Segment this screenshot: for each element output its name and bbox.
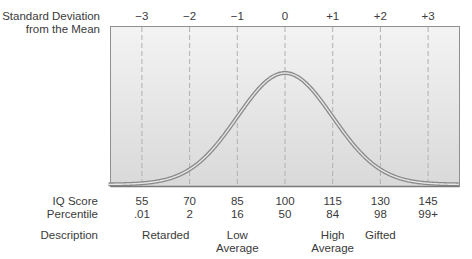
sd-row-label: Standard Deviation from the Mean xyxy=(0,10,100,36)
iq-score-value: 100 xyxy=(275,195,294,208)
percentile-row-label: Percentile xyxy=(0,208,98,221)
description-label: Gifted xyxy=(365,229,396,242)
iq-score-value: 85 xyxy=(231,195,244,208)
sd-tick-label: +2 xyxy=(374,10,387,23)
percentile-value: 98 xyxy=(374,208,387,221)
description-label: HighAverage xyxy=(311,229,354,255)
sd-tick-label: +3 xyxy=(422,10,435,23)
description-label: LowAverage xyxy=(216,229,259,255)
sd-label-line2: from the Mean xyxy=(0,23,100,36)
percentile-value: 99+ xyxy=(418,208,438,221)
sd-tick-label: −1 xyxy=(231,10,244,23)
sd-tick-label: 0 xyxy=(282,10,288,23)
description-row-label: Description xyxy=(0,229,98,242)
iq-score-value: 70 xyxy=(183,195,196,208)
sd-tick-label: −3 xyxy=(135,10,148,23)
percentile-value: .01 xyxy=(134,208,150,221)
iq-score-value: 145 xyxy=(419,195,438,208)
sd-tick-label: +1 xyxy=(326,10,339,23)
iq-row-label: IQ Score xyxy=(0,195,98,208)
sd-label-line1: Standard Deviation xyxy=(0,10,100,23)
percentile-value: 84 xyxy=(326,208,339,221)
iq-score-value: 55 xyxy=(135,195,148,208)
description-label: Retarded xyxy=(142,229,189,242)
percentile-value: 2 xyxy=(186,208,192,221)
percentile-value: 50 xyxy=(279,208,292,221)
percentile-value: 16 xyxy=(231,208,244,221)
iq-score-value: 115 xyxy=(324,195,342,208)
plot-area xyxy=(111,27,460,187)
sd-tick-label: −2 xyxy=(183,10,196,23)
iq-score-value: 130 xyxy=(371,195,390,208)
